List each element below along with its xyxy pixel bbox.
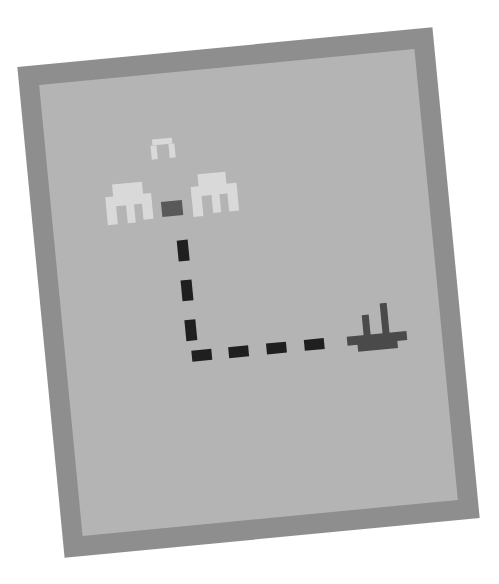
path-dash-v1 [176,239,189,261]
game-board [39,48,458,535]
right-arch-icon [189,170,239,216]
puzzle-card [17,27,479,558]
path-dash-h1 [191,348,212,361]
path-dash-v3 [184,319,197,341]
left-arch-icon [104,180,154,224]
power-source-block [160,199,182,216]
path-dash-v2 [180,279,193,301]
path-dash-h4 [303,338,324,351]
path-dash-h3 [265,341,286,354]
stage [0,0,499,584]
small-arch-icon [149,137,175,159]
path-dash-h2 [228,345,249,358]
plug-icon [343,301,407,353]
